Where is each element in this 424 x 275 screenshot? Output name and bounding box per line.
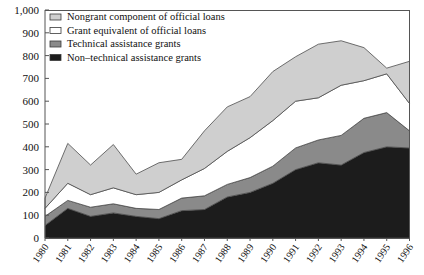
legend-label: Grant equivalent of official loans [67,25,206,36]
y-tick-label: 500 [23,118,40,130]
x-tick-label: 1991 [281,242,301,265]
x-axis-ticks: 1980198119821983198419851986198719881989… [30,238,415,265]
x-tick-label: 1990 [258,242,278,265]
y-axis-ticks: 1,0009008007006005004003002001000 [14,4,49,244]
x-tick-label: 1988 [212,242,232,265]
legend-swatch [50,14,61,20]
y-tick-label: 800 [23,50,40,62]
y-tick-label: 700 [23,72,40,84]
x-tick-label: 1980 [30,242,50,265]
y-tick-label: 1,000 [14,4,39,16]
legend-swatch [50,41,61,47]
x-tick-label: 1995 [372,242,392,265]
x-tick-label: 1982 [76,242,96,265]
y-tick-label: 100 [23,209,40,221]
x-tick-label: 1994 [349,242,369,265]
legend-label: Technical assistance grants [67,38,181,49]
x-tick-label: 1986 [167,242,187,265]
y-tick-label: 900 [23,27,40,39]
y-tick-label: 400 [23,141,40,153]
x-tick-label: 1989 [235,242,255,265]
y-tick-label: 200 [23,186,40,198]
legend-swatch [50,28,61,34]
x-tick-label: 1983 [98,242,118,265]
y-tick-label: 600 [23,95,40,107]
x-tick-label: 1992 [304,242,324,265]
legend-label: Nongrant component of official loans [67,11,225,22]
legend-label: Non–technical assistance grants [67,52,201,63]
legend-swatch [50,55,61,61]
x-tick-label: 1984 [121,242,141,265]
y-tick-label: 0 [34,232,40,244]
stacked-area-chart: 1,0009008007006005004003002001000 198019… [0,0,424,275]
chart-canvas: 1,0009008007006005004003002001000 198019… [0,0,424,275]
x-tick-label: 1987 [190,242,210,265]
y-tick-label: 300 [23,164,40,176]
x-tick-label: 1996 [395,242,415,265]
x-tick-label: 1985 [144,242,164,265]
x-tick-label: 1993 [326,242,346,265]
x-tick-label: 1981 [53,242,73,265]
